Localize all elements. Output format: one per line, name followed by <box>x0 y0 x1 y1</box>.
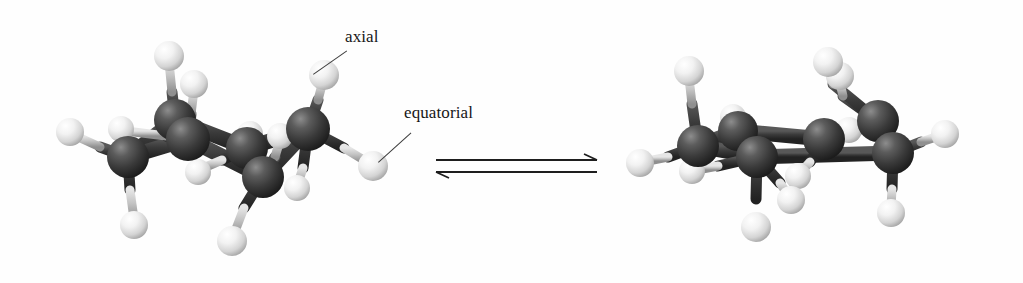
axial-label: axial <box>345 27 379 47</box>
right-hydrogens-front <box>626 47 959 242</box>
left-carbons <box>107 99 330 198</box>
molecular-equilibrium-figure: axial equatorial <box>0 0 1023 283</box>
equatorial-label: equatorial <box>404 103 473 123</box>
cyclohexane-chair-left <box>0 0 1023 283</box>
right-carbons <box>677 100 914 178</box>
axial-hydrogen <box>309 60 339 90</box>
equilibrium-arrow-reverse <box>436 172 597 178</box>
left-hydrogens-back <box>108 116 310 201</box>
right-hydrogens-back <box>679 104 862 189</box>
equilibrium-arrow-forward <box>436 154 597 160</box>
right-bonds <box>648 70 939 221</box>
equatorial-leader-line <box>378 133 411 163</box>
cyclohexane-chair-right <box>0 0 1023 283</box>
left-bonds <box>76 62 367 234</box>
left-hydrogens-front <box>56 41 388 256</box>
axial-leader-line <box>313 50 347 74</box>
equilibrium-arrows <box>0 0 1023 283</box>
